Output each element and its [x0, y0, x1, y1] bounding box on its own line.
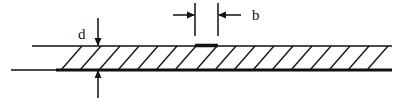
width-label: b: [252, 7, 260, 23]
hatching: [61, 46, 388, 70]
weld-cross-section-diagram: d b: [0, 0, 404, 109]
thickness-label: d: [78, 26, 86, 42]
